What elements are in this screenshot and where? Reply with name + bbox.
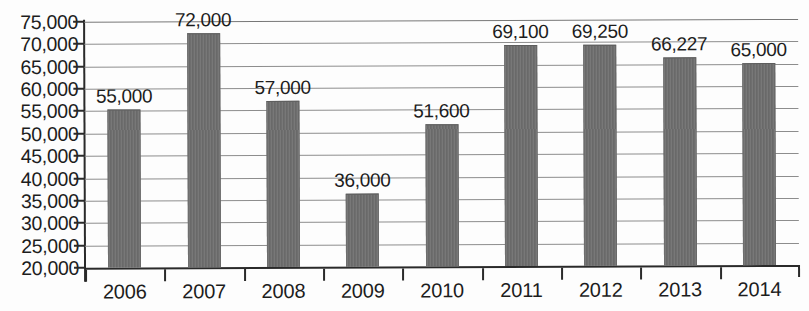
y-axis-tick bbox=[73, 110, 84, 112]
x-axis-label-2014: 2014 bbox=[709, 279, 809, 299]
bar-2006[interactable] bbox=[108, 110, 142, 268]
y-axis-tick bbox=[74, 177, 85, 179]
y-axis-tick-label: 60,000 bbox=[20, 80, 78, 100]
x-axis-tick bbox=[640, 268, 642, 280]
y-axis-tick-label: 25,000 bbox=[21, 236, 79, 256]
x-axis-tick bbox=[561, 268, 563, 280]
bar-value-label-2009: 36,000 bbox=[312, 171, 412, 190]
y-axis-tick bbox=[74, 267, 85, 269]
y-axis-tick-label: 70,000 bbox=[20, 35, 78, 55]
y-axis-tick-label: 75,000 bbox=[20, 13, 78, 33]
y-axis-tick-label: 45,000 bbox=[21, 147, 79, 167]
bar-value-label-2006: 55,000 bbox=[74, 87, 174, 106]
bar-2007[interactable] bbox=[187, 34, 221, 268]
y-axis-tick bbox=[74, 200, 85, 202]
y-axis-tick bbox=[74, 222, 85, 224]
y-axis-tick bbox=[74, 132, 85, 134]
y-axis-tick-label: 65,000 bbox=[20, 57, 78, 77]
y-axis-tick-label: 30,000 bbox=[21, 214, 79, 234]
y-axis-tick-labels: 20,00025,00030,00035,00040,00045,00050,0… bbox=[0, 0, 79, 311]
y-axis-tick bbox=[73, 65, 84, 67]
bar-2014[interactable] bbox=[742, 63, 776, 265]
y-axis-tick-label: 40,000 bbox=[21, 169, 79, 189]
x-axis-tick bbox=[244, 269, 246, 281]
y-axis-tick-label: 50,000 bbox=[21, 125, 79, 145]
bar-value-label-2014: 65,000 bbox=[708, 40, 808, 59]
bar-2009[interactable] bbox=[346, 194, 379, 267]
bar-value-label-2007: 72,000 bbox=[153, 10, 253, 29]
bar-chart: 20,00025,00030,00035,00040,00045,00050,0… bbox=[0, 0, 809, 311]
plot-area: 55,00072,00057,00036,00051,60069,10069,2… bbox=[84, 19, 799, 268]
bar-2011[interactable] bbox=[504, 45, 538, 266]
y-axis-tick-label: 55,000 bbox=[21, 102, 79, 122]
y-axis-tick bbox=[73, 21, 84, 23]
chart-skew-wrapper: 20,00025,00030,00035,00040,00045,00050,0… bbox=[0, 0, 809, 311]
x-axis-end-cap bbox=[798, 265, 800, 277]
y-axis-tick bbox=[73, 88, 84, 90]
y-axis-tick bbox=[74, 244, 85, 246]
x-axis-tick bbox=[720, 267, 722, 279]
y-axis-tick-label: 35,000 bbox=[21, 192, 79, 212]
x-axis-tick bbox=[85, 270, 87, 282]
y-axis-tick-label: 20,000 bbox=[21, 259, 79, 279]
bar-value-label-2010: 51,600 bbox=[391, 101, 491, 120]
bar-2008[interactable] bbox=[266, 100, 300, 267]
x-axis-tick bbox=[323, 269, 325, 281]
x-axis-tick bbox=[482, 268, 484, 280]
y-axis-tick bbox=[74, 155, 85, 157]
x-axis-tick bbox=[164, 269, 166, 281]
bar-2012[interactable] bbox=[583, 44, 617, 265]
bar-value-label-2008: 57,000 bbox=[233, 77, 333, 96]
bar-2013[interactable] bbox=[663, 58, 697, 266]
bar-2010[interactable] bbox=[425, 124, 459, 266]
x-axis-tick bbox=[402, 268, 404, 280]
y-axis-tick bbox=[73, 43, 84, 45]
